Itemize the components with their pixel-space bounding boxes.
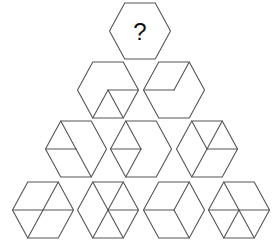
question-mark: ?: [133, 18, 146, 45]
hexagon-figure: [46, 121, 107, 177]
hexagon-figure: [144, 182, 205, 238]
hexagon-figure: [78, 182, 139, 238]
hexagon-pyramid-puzzle: ?: [0, 0, 279, 249]
hexagon-figure: [177, 121, 238, 177]
hexagon-figure: [13, 182, 74, 238]
hexagon-figure: [209, 182, 270, 238]
hexagon-figure: [111, 121, 172, 177]
hexagon-figure: [144, 62, 205, 118]
hexagon-figure: [78, 62, 139, 118]
